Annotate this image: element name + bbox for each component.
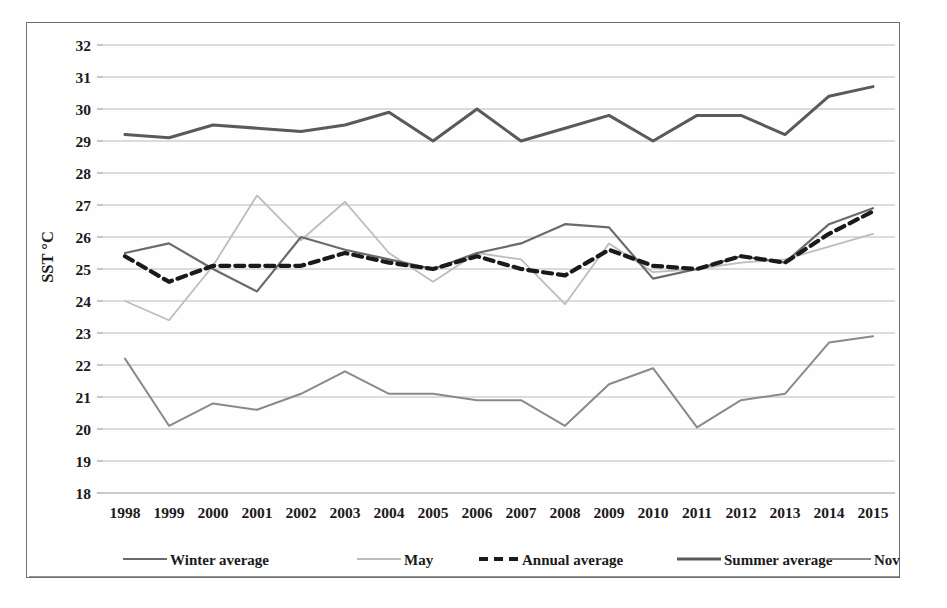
x-tick-label: 2000 <box>198 504 229 521</box>
x-tick-label: 2012 <box>726 504 757 521</box>
y-tick-label: 18 <box>76 485 92 502</box>
y-tick-label: 26 <box>76 229 92 246</box>
x-tick-labels: 1998199920002001200220032004200520062007… <box>110 504 889 521</box>
legend-label-winter-average[interactable]: Winter average <box>170 552 269 568</box>
y-axis-title: SST °C <box>38 231 57 283</box>
x-tick-label: 2011 <box>682 504 712 521</box>
y-tick-label: 21 <box>76 389 92 406</box>
legend-label-summer-average[interactable]: Summer average <box>724 552 833 568</box>
x-tick-label: 2001 <box>242 504 273 521</box>
y-tick-label: 19 <box>76 453 92 470</box>
x-tick-label: 2005 <box>418 504 449 521</box>
x-tick-label: 2002 <box>286 504 317 521</box>
x-tick-label: 2015 <box>858 504 889 521</box>
series-line-winter-average <box>125 208 873 291</box>
series-line-annual-average <box>125 211 873 281</box>
x-tick-label: 2009 <box>594 504 625 521</box>
y-tick-label: 29 <box>76 133 92 150</box>
x-tick-label: 2007 <box>506 504 537 521</box>
x-tick-label: 2010 <box>638 504 669 521</box>
y-tick-label: 24 <box>76 293 92 310</box>
x-tick-label: 1999 <box>154 504 185 521</box>
series-group <box>125 87 873 428</box>
legend-label-annual-average[interactable]: Annual average <box>522 552 624 568</box>
y-tick-label: 20 <box>76 421 92 438</box>
x-tick-label: 2008 <box>550 504 581 521</box>
y-tick-label: 27 <box>76 197 92 214</box>
x-tick-label: 1998 <box>110 504 141 521</box>
y-tick-label: 23 <box>76 325 92 342</box>
x-tick-label: 2013 <box>770 504 801 521</box>
legend-label-nov[interactable]: Nov <box>874 552 900 568</box>
chart-frame: 181920212223242526272829303132SST °C1998… <box>26 22 900 578</box>
series-line-nov <box>125 336 873 427</box>
legend-label-may[interactable]: May <box>404 552 434 568</box>
x-tick-label: 2006 <box>462 504 493 521</box>
x-tick-label: 2003 <box>330 504 361 521</box>
y-tick-label: 31 <box>76 69 92 86</box>
x-tick-label: 2004 <box>374 504 405 521</box>
y-tick-label: 28 <box>76 165 92 182</box>
y-tick-label: 30 <box>76 101 92 118</box>
y-tick-label: 32 <box>76 37 92 54</box>
series-line-summer-average <box>125 87 873 141</box>
y-tick-label: 25 <box>76 261 92 278</box>
chart-plot-area: 181920212223242526272829303132SST °C1998… <box>27 23 901 579</box>
y-tick-label: 22 <box>76 357 92 374</box>
line-chart: 181920212223242526272829303132SST °C1998… <box>27 23 901 579</box>
x-tick-label: 2014 <box>814 504 845 521</box>
chart-legend: Winter averageMayAnnual averageSummer av… <box>123 552 900 568</box>
